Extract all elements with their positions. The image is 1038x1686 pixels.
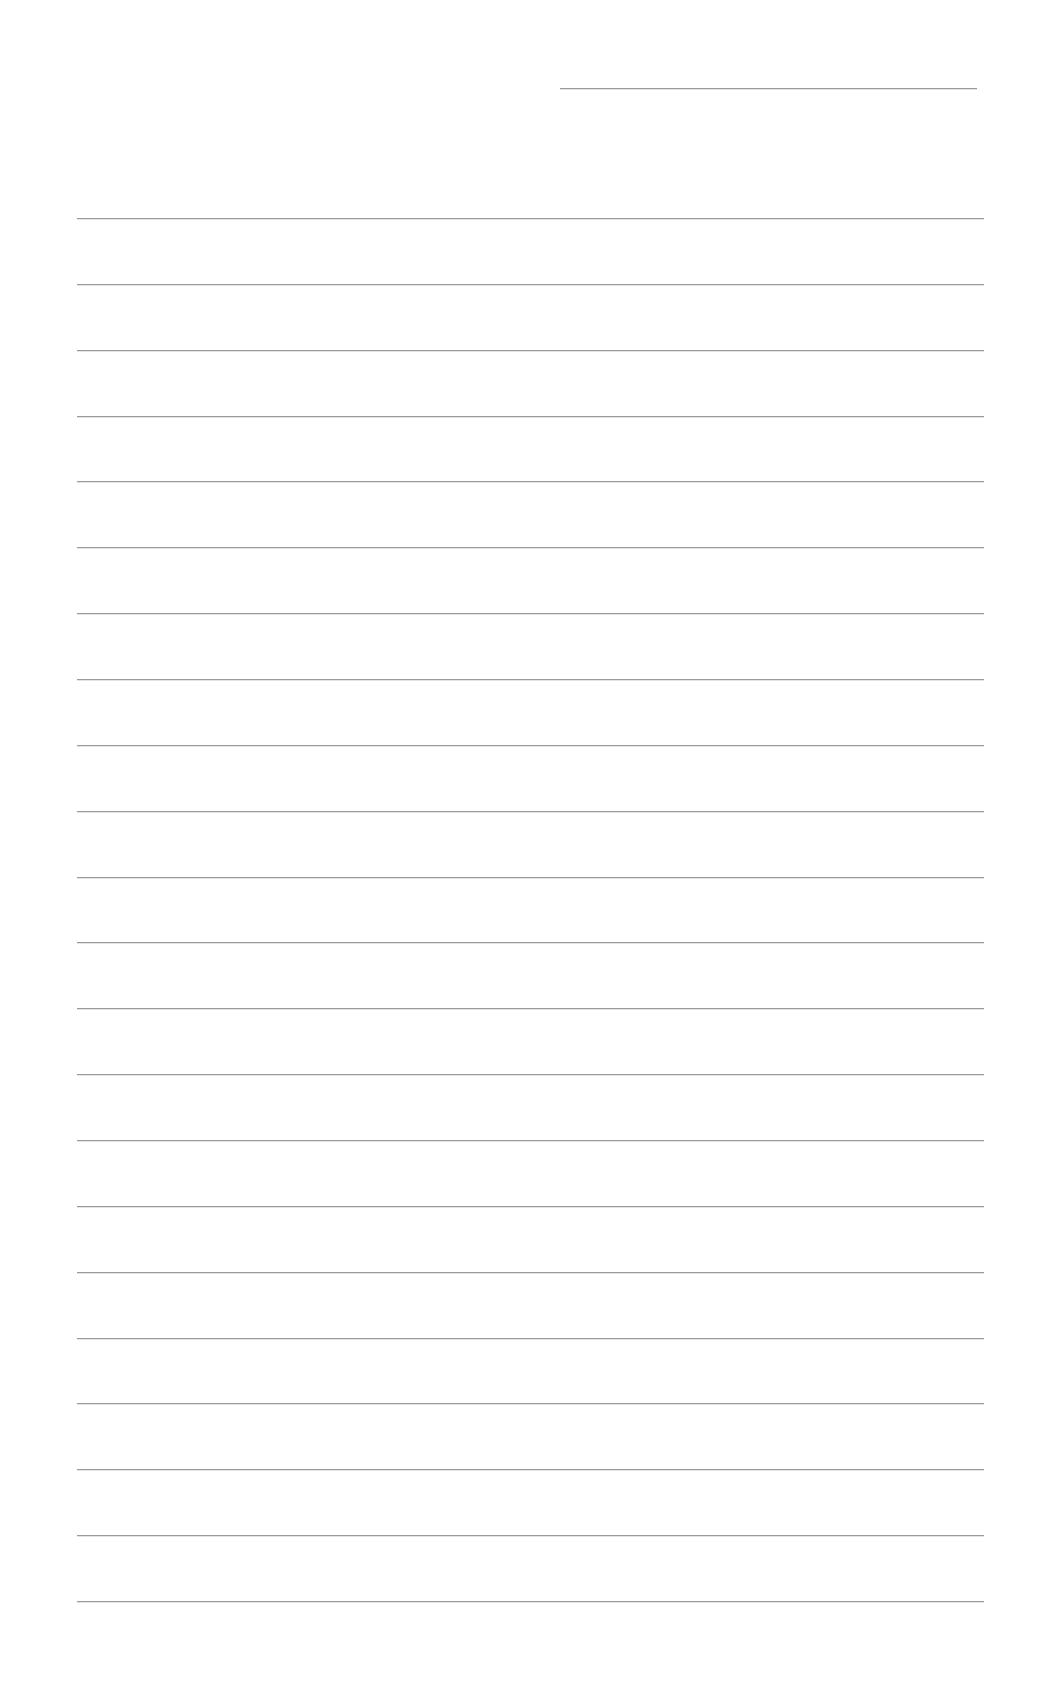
ruled-line [77, 613, 984, 614]
ruled-line [77, 1272, 984, 1273]
ruled-line [77, 1403, 984, 1404]
ruled-line [77, 416, 984, 417]
ruled-line [77, 1008, 984, 1009]
ruled-line [77, 811, 984, 812]
ruled-line [77, 1338, 984, 1339]
ruled-line [77, 1601, 984, 1602]
ruled-line [77, 350, 984, 351]
ruled-line [77, 547, 984, 548]
ruled-line [77, 877, 984, 878]
ruled-line [77, 481, 984, 482]
ruled-line [77, 218, 984, 219]
ruled-line [77, 1074, 984, 1075]
ruled-line [77, 942, 984, 943]
ruled-line [77, 1206, 984, 1207]
ruled-line [77, 679, 984, 680]
ruled-line [77, 745, 984, 746]
ruled-line [77, 1469, 984, 1470]
header-line [560, 88, 977, 89]
ruled-line [77, 1140, 984, 1141]
ruled-line [77, 1535, 984, 1536]
ruled-line [77, 284, 984, 285]
